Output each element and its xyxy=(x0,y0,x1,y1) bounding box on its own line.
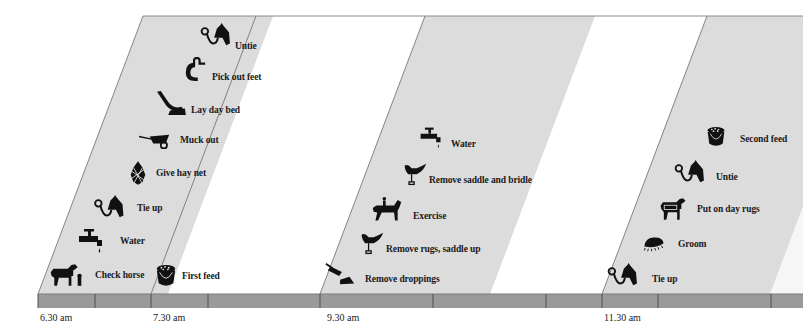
task-label: Tie up xyxy=(652,274,677,284)
task-check-horse: Check horse xyxy=(48,262,144,288)
task-second-feed: Second feed xyxy=(706,125,787,149)
task-label: Untie xyxy=(235,41,257,51)
task-pick-out-feet: Pick out feet xyxy=(183,57,261,83)
task-label: Exercise xyxy=(413,211,446,221)
task-label: Water xyxy=(451,139,476,149)
tap-icon xyxy=(76,228,106,254)
hoof-pick-icon xyxy=(183,57,207,83)
rugged-horse-icon xyxy=(658,196,688,222)
brush-icon xyxy=(642,233,666,255)
task-put-on-day-rugs: Put on day rugs xyxy=(658,196,760,222)
task-label: Lay day bed xyxy=(191,105,240,115)
task-remove-rugs-saddle-up: Remove rugs, saddle up xyxy=(360,231,480,257)
stable-routine-diagram: Check horse Water Tie up Give hay net Mu… xyxy=(0,0,803,331)
task-untie: Untie xyxy=(200,21,257,51)
horse-head-rope-icon xyxy=(93,195,126,221)
time-label-1130: 11.30 am xyxy=(604,312,641,323)
feed-bucket-icon xyxy=(706,125,726,149)
task-label: Remove rugs, saddle up xyxy=(386,244,480,254)
horse-head-rope-icon xyxy=(674,160,706,186)
task-water: Water xyxy=(76,228,145,254)
feed-bucket-icon xyxy=(155,264,177,288)
horse-head-rope-icon xyxy=(606,263,640,289)
task-label: Tie up xyxy=(137,203,162,213)
task-tie-up-2: Tie up xyxy=(606,263,677,289)
horse-with-person-icon xyxy=(48,262,84,288)
task-remove-droppings: Remove droppings xyxy=(325,261,440,287)
task-label: Untie xyxy=(716,172,738,182)
task-muck-out: Muck out xyxy=(139,131,219,149)
task-label: Check horse xyxy=(95,270,144,280)
task-label: Second feed xyxy=(740,134,787,144)
wheelbarrow-icon xyxy=(139,131,171,149)
pitchfork-straw-icon xyxy=(155,90,187,116)
saddle-icon xyxy=(360,231,384,257)
task-groom: Groom xyxy=(642,233,706,255)
task-exercise: Exercise xyxy=(371,196,446,222)
hay-net-icon xyxy=(128,160,148,186)
task-label: Pick out feet xyxy=(212,72,261,82)
task-label: Muck out xyxy=(180,135,219,145)
horse-rider-icon xyxy=(371,196,403,222)
time-label-630: 6.30 am xyxy=(40,312,72,323)
task-tie-up: Tie up xyxy=(93,195,162,221)
task-label: First feed xyxy=(182,271,220,281)
task-label: Remove saddle and bridle xyxy=(429,175,532,185)
task-lay-day-bed: Lay day bed xyxy=(155,90,240,116)
task-label: Give hay net xyxy=(156,168,206,178)
task-untie-2: Untie xyxy=(674,160,738,186)
task-label: Water xyxy=(120,236,145,246)
task-first-feed: First feed xyxy=(155,264,220,288)
task-label: Put on day rugs xyxy=(697,204,760,214)
task-remove-saddle-and-bridle: Remove saddle and bridle xyxy=(403,162,532,188)
task-label: Groom xyxy=(678,239,706,249)
task-label: Remove droppings xyxy=(365,274,440,284)
time-label-930: 9.30 am xyxy=(327,312,359,323)
task-give-hay-net: Give hay net xyxy=(128,160,206,186)
task-water-2: Water xyxy=(418,125,476,151)
time-label-730: 7.30 am xyxy=(153,312,185,323)
tap-icon xyxy=(418,125,444,151)
shovel-icon xyxy=(325,261,357,287)
saddle-icon xyxy=(403,162,427,188)
horse-head-rope-icon xyxy=(200,23,232,49)
